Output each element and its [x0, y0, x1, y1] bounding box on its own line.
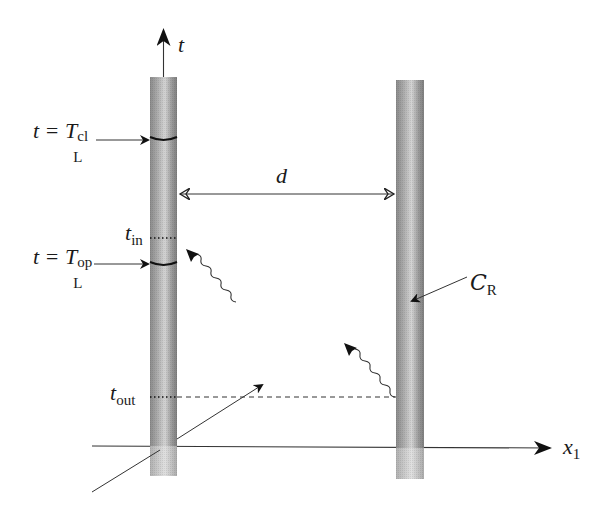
- t-closed-label: t = TclL: [33, 120, 99, 142]
- t-closed-sup: cl: [77, 129, 88, 144]
- t-open-sub: L: [73, 276, 82, 291]
- t-out-sub: out: [116, 392, 135, 408]
- t-closed-sub: L: [73, 150, 82, 165]
- x1-main: x: [563, 434, 573, 459]
- t-open-label: t = TopL: [33, 246, 99, 268]
- t-closed-lhs: t =: [33, 118, 65, 143]
- t-open-lhs: t =: [33, 244, 65, 269]
- separation-label: d: [276, 165, 287, 187]
- x1-sub: 1: [573, 446, 581, 462]
- t-in-sub: in: [131, 232, 143, 248]
- t-axis-label: t: [178, 34, 184, 56]
- wavy-signal-left: [186, 249, 236, 302]
- right-cylinder: [396, 80, 424, 479]
- t-open-sup: op: [77, 255, 92, 270]
- t-in-label: tin: [125, 222, 143, 244]
- c-r-main: C: [470, 270, 487, 295]
- t-out-label: tout: [110, 382, 135, 404]
- wavy-signal-right: [344, 343, 395, 397]
- t-open-T: T: [65, 244, 77, 269]
- left-cylinder: [150, 77, 177, 476]
- t-closed-T: T: [65, 118, 77, 143]
- c-r-label: CR: [470, 272, 497, 294]
- x1-axis-label: x1: [563, 436, 580, 458]
- c-r-sub: R: [487, 282, 497, 298]
